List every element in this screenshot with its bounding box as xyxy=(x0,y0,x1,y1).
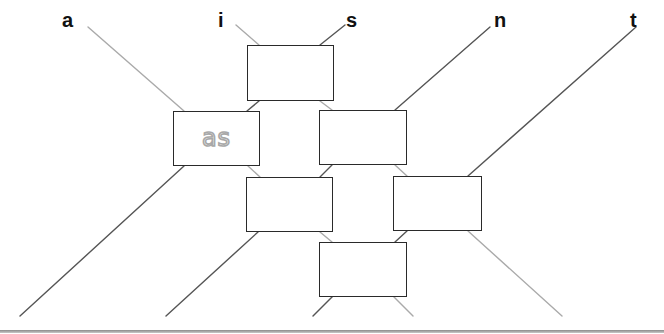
wire-box1-to-box3 xyxy=(320,101,332,110)
wire-box1-to-box2 xyxy=(247,101,259,111)
comparator-box-2-text: as xyxy=(174,124,259,152)
wire-n-to-box3 xyxy=(395,27,490,110)
input-label-t: t xyxy=(630,10,637,30)
comparator-box-1[interactable] xyxy=(247,45,334,101)
comparator-box-5[interactable] xyxy=(393,176,482,231)
wire-box4-out xyxy=(166,232,258,316)
wire-box3-to-box4 xyxy=(320,165,332,177)
comparator-box-3[interactable] xyxy=(319,110,407,165)
wire-a-to-box2 xyxy=(88,27,184,111)
wire-box4-to-box6 xyxy=(320,232,332,242)
wire-box3-to-box5 xyxy=(395,165,407,176)
input-label-i: i xyxy=(218,10,224,30)
input-label-a: a xyxy=(62,10,73,30)
comparator-box-4[interactable] xyxy=(246,177,333,232)
bottom-divider xyxy=(0,330,664,333)
wire-t-to-box5 xyxy=(468,27,636,176)
input-label-n: n xyxy=(494,10,506,30)
wire-s-to-box1 xyxy=(320,25,345,45)
wire-box6-out-left xyxy=(313,297,332,316)
wire-box5-out xyxy=(468,231,562,316)
input-label-s: s xyxy=(346,10,357,30)
wire-box2-to-box4 xyxy=(248,166,260,177)
wire-i-to-box1 xyxy=(236,25,259,45)
comparator-box-2[interactable]: as xyxy=(173,111,260,166)
comparator-diagram: a i s n t as xyxy=(0,0,664,334)
wire-box5-to-box6 xyxy=(395,231,407,242)
comparator-box-6[interactable] xyxy=(319,242,407,297)
wire-box2-out xyxy=(20,166,184,316)
wire-box6-out xyxy=(394,297,413,316)
